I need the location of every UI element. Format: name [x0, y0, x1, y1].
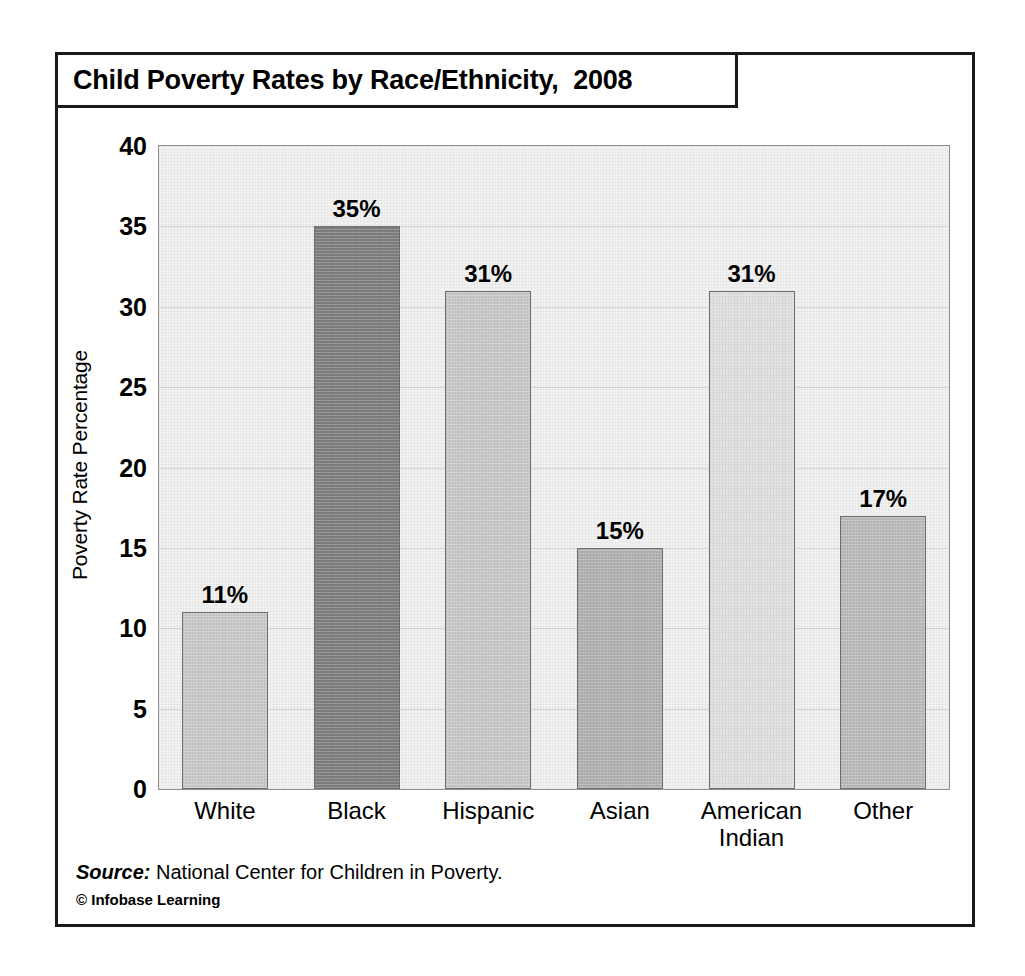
bar-black[interactable]: 35%Black: [314, 226, 400, 789]
source-label: Source:: [76, 861, 150, 883]
bar-value-label: 11%: [201, 581, 248, 609]
x-axis-tick-line: Hispanic: [442, 797, 534, 824]
source-line: Source: National Center for Children in …: [76, 861, 936, 884]
bar-series: 11%White35%Black31%Hispanic15%Asian31%Am…: [159, 146, 949, 789]
y-axis-tick-label: 35: [77, 212, 147, 241]
x-axis-tick-line: Other: [853, 797, 913, 824]
plot-area: 0510152025303540 11%White35%Black31%Hisp…: [158, 145, 950, 790]
chart-area: Poverty Rate Percentage 0510152025303540…: [58, 108, 972, 924]
bar-american-indian[interactable]: 31%AmericanIndian: [709, 291, 795, 789]
bar-value-label: 35%: [332, 195, 380, 223]
y-axis-tick-label: 20: [77, 453, 147, 482]
bar-hispanic[interactable]: 31%Hispanic: [445, 291, 531, 789]
x-axis-tick-line: American: [701, 797, 802, 824]
y-axis-tick-label: 15: [77, 533, 147, 562]
y-axis-tick-label: 5: [77, 694, 147, 723]
bar-white[interactable]: 11%White: [182, 612, 268, 789]
x-axis-tick-line: Asian: [590, 797, 650, 824]
bar-asian[interactable]: 15%Asian: [577, 548, 663, 789]
copyright-notice: © Infobase Learning: [76, 891, 936, 908]
x-axis-tick-line: Black: [327, 797, 386, 824]
y-axis-tick-label: 40: [77, 132, 147, 161]
y-axis-tick-label: 25: [77, 373, 147, 402]
page-title: Child Poverty Rates by Race/Ethnicity, 2…: [58, 65, 632, 96]
bar-other[interactable]: 17%Other: [840, 516, 926, 789]
source-text: National Center for Children in Poverty.: [150, 861, 502, 883]
chart-footer: Source: National Center for Children in …: [76, 861, 936, 908]
x-axis-tick-line: White: [194, 797, 255, 824]
bar-value-label: 31%: [727, 260, 775, 288]
y-axis-tick-label: 10: [77, 614, 147, 643]
chart-figure: Child Poverty Rates by Race/Ethnicity, 2…: [55, 52, 975, 927]
chart-title-box: Child Poverty Rates by Race/Ethnicity, 2…: [55, 52, 738, 108]
x-axis-tick-label: Other: [788, 797, 978, 824]
bar-value-label: 31%: [464, 260, 512, 288]
y-axis-tick-label: 30: [77, 292, 147, 321]
x-axis-tick-line: Indian: [719, 824, 784, 851]
bar-value-label: 15%: [596, 517, 644, 545]
bar-value-label: 17%: [859, 485, 907, 513]
